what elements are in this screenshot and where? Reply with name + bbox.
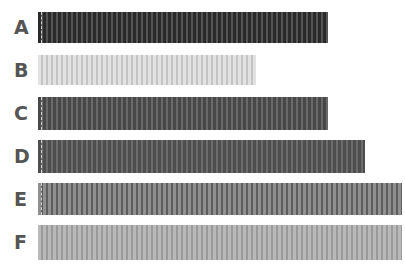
bar-row-c: C (0, 97, 405, 130)
category-label: D (14, 147, 34, 166)
category-label: C (14, 104, 34, 123)
bar-row-f: F (0, 225, 405, 260)
bar (38, 55, 256, 85)
bar-row-d: D (0, 140, 405, 173)
category-label: E (14, 190, 34, 209)
bar-start-marker (41, 97, 43, 130)
bar (38, 97, 328, 130)
bar-row-b: B (0, 55, 405, 85)
bar-row-a: A (0, 12, 405, 43)
bar (38, 12, 328, 43)
bar-start-marker (41, 12, 43, 43)
category-label: F (14, 233, 34, 252)
bar-start-marker (41, 140, 43, 173)
bar (38, 183, 402, 215)
category-label: A (14, 18, 34, 37)
bar-row-e: E (0, 183, 405, 215)
category-label: B (14, 61, 34, 80)
bar-start-marker (41, 183, 43, 215)
bar (38, 140, 365, 173)
bar (38, 225, 402, 260)
